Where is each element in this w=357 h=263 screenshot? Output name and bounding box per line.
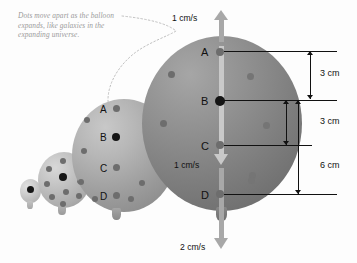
dot-large-3 xyxy=(160,120,167,127)
velocity-arrow-bottom-head xyxy=(214,238,228,249)
velocity-arrow-top-head xyxy=(214,10,228,20)
point-dot-large-A xyxy=(216,48,224,56)
dot-large-1 xyxy=(168,71,175,78)
point-label-large-B: B xyxy=(201,96,208,106)
dot-tiny-center xyxy=(27,186,34,193)
point-label-medium-A: A xyxy=(100,105,107,115)
dot-small-7 xyxy=(63,189,69,195)
dimension-arrow-AB-bottom xyxy=(307,95,313,99)
dot-medium-6 xyxy=(128,196,134,202)
point-label-medium-D: D xyxy=(100,192,107,202)
dimension-label-AB: 3 cm xyxy=(320,68,340,78)
velocity-arrow-bottom-shaft xyxy=(219,168,224,240)
dot-small-6 xyxy=(49,194,55,200)
dimension-label-BD: 6 cm xyxy=(320,160,340,170)
dimension-label-BC: 3 cm xyxy=(320,116,340,126)
dot-medium-3 xyxy=(78,179,84,185)
dimension-line-BC xyxy=(286,101,287,145)
velocity-label-middle: 1 cm/s xyxy=(174,160,199,170)
dot-medium-1 xyxy=(84,117,90,123)
dimension-line-BD xyxy=(298,101,299,194)
dot-small-4 xyxy=(44,181,50,187)
point-dot-large-D xyxy=(216,190,224,198)
point-label-large-D: D xyxy=(201,190,209,200)
point-label-large-C: C xyxy=(201,141,209,151)
dot-small-center xyxy=(59,173,67,181)
dot-large-6 xyxy=(248,177,255,184)
figure-canvas: A B C D 1 cm/s 1 cm/s 2 cm/s A B C D xyxy=(0,0,357,263)
velocity-arrow-middle-head xyxy=(214,154,228,165)
point-label-medium-B: B xyxy=(100,133,107,143)
point-label-large-A: A xyxy=(201,47,208,57)
dot-small-2 xyxy=(60,158,66,164)
point-dot-medium-B xyxy=(112,133,120,141)
velocity-label-bottom: 2 cm/s xyxy=(180,242,205,252)
dimension-arrow-BD-top xyxy=(295,100,301,104)
dot-large-4 xyxy=(263,122,270,129)
point-dot-medium-C xyxy=(113,164,120,171)
dimension-arrow-AB-top xyxy=(307,51,313,55)
velocity-label-top: 1 cm/s xyxy=(172,13,197,23)
dot-small-8 xyxy=(76,193,82,199)
dimension-line-AB xyxy=(310,52,311,99)
point-dot-medium-D xyxy=(113,192,120,199)
extension-line-B xyxy=(224,100,337,101)
point-dot-large-C xyxy=(216,141,224,149)
balloon-tiny-neck xyxy=(27,201,33,209)
point-label-medium-C: C xyxy=(100,164,107,174)
dot-medium-2 xyxy=(81,148,87,154)
figure-caption: Dots move apart as the balloon expands, … xyxy=(18,11,136,40)
point-dot-medium-A xyxy=(113,105,120,112)
dot-medium-5 xyxy=(139,180,145,186)
point-dot-large-B xyxy=(215,96,225,106)
dot-small-1 xyxy=(46,166,52,172)
extension-line-A xyxy=(224,51,337,52)
dimension-arrow-BC-bottom xyxy=(283,141,289,145)
dot-medium-4 xyxy=(92,196,98,202)
balloon-medium-neck xyxy=(112,208,121,220)
dimension-arrow-BD-bottom xyxy=(295,190,301,194)
dot-small-9 xyxy=(60,201,66,207)
extension-line-D xyxy=(224,194,337,195)
dot-large-2 xyxy=(247,73,254,80)
dimension-arrow-BC-top xyxy=(283,100,289,104)
